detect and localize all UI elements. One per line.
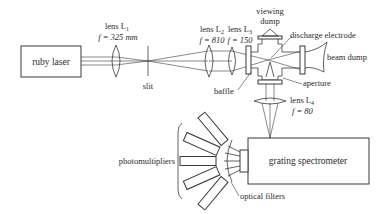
viewing-dump-label: viewing dump [256, 6, 284, 26]
svg-text:viewing: viewing [256, 6, 284, 16]
lens-l4-focal: f = 80 [292, 106, 314, 116]
lens-l1-name: lens L1 [105, 21, 129, 32]
lens-l2: lens L2 f = 810 [199, 24, 225, 77]
svg-text:discharge electrode: discharge electrode [290, 30, 356, 40]
svg-text:aperture: aperture [303, 78, 331, 88]
svg-text:baffle: baffle [214, 86, 234, 96]
svg-text:dump: dump [260, 16, 279, 26]
optical-diagram: ruby laser lens L1 f = 325 mm slit lens … [0, 0, 390, 214]
lens-l1-focal: f = 325 mm [98, 32, 138, 42]
lens-l4: lens L4 f = 80 [254, 84, 314, 138]
beam-dump: beam dump [305, 42, 367, 72]
beam-slit-to-l2 [148, 51, 208, 71]
grating-spectrometer-label: grating spectrometer [269, 156, 348, 166]
photomultiplier-fan [180, 112, 228, 210]
aperture-label: aperture [283, 78, 331, 88]
photomultiplier-3 [180, 157, 216, 166]
slit: slit [143, 46, 154, 91]
lens-l3-focal: f = 150 [227, 35, 253, 45]
lens-l1: lens L1 f = 325 mm [98, 21, 138, 77]
baffle-label: baffle [214, 72, 251, 96]
lens-l3-name: lens L3 [228, 24, 252, 35]
ruby-laser: ruby laser [21, 46, 81, 77]
beam-dump-label: beam dump [327, 52, 367, 62]
laser-beam [81, 57, 116, 65]
ruby-laser-label: ruby laser [32, 57, 71, 67]
photomultipliers-label: photomultipliers [119, 123, 182, 199]
svg-text:photomultipliers: photomultipliers [119, 156, 175, 166]
lens-l2-name: lens L2 [200, 24, 224, 35]
lens-l2-focal: f = 810 [199, 35, 225, 45]
beam-l1-to-slit [116, 57, 148, 65]
optical-filters-label: optical filters [240, 191, 285, 201]
lens-l4-name: lens L4 [290, 95, 314, 106]
slit-label: slit [143, 81, 154, 91]
grating-spectrometer: grating spectrometer [240, 138, 369, 184]
